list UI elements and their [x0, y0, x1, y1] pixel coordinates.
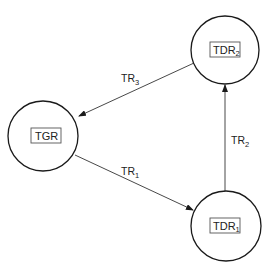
- node-tdr1[interactable]: TDR1: [191, 191, 261, 261]
- edge-tr2: TR2: [225, 85, 249, 191]
- edge-tr3: TR3: [79, 63, 194, 116]
- edge-tr2-label: TR2: [231, 134, 249, 149]
- state-diagram: TR3 TR1 TR2 TDR2 TGR TDR1: [0, 0, 272, 273]
- node-tdr2[interactable]: TDR2: [191, 16, 259, 84]
- edge-tr3-arrow: [79, 63, 194, 116]
- edge-tr1-arrow: [75, 155, 193, 210]
- edge-tr1: TR1: [75, 155, 193, 210]
- node-tgr[interactable]: TGR: [8, 101, 78, 171]
- edge-tr3-label: TR3: [121, 72, 139, 87]
- node-tgr-label: TGR: [35, 130, 58, 142]
